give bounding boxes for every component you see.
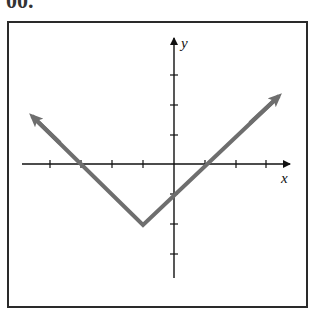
- v-shaped-graph-line: [32, 96, 279, 225]
- y-axis-label: y: [179, 35, 188, 51]
- x-axis-label: x: [280, 170, 288, 186]
- coordinate-plane: x y: [0, 0, 314, 312]
